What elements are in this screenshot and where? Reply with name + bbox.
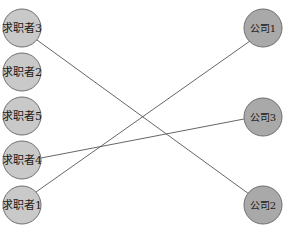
edge-seeker4-company3	[41, 119, 244, 158]
bipartite-graph: 求职者3 求职者2 求职者5 求职者4 求职者1 公司1 公司3 公司2	[0, 0, 285, 231]
node-label: 求职者4	[2, 154, 42, 167]
node-label: 求职者5	[2, 110, 42, 123]
node-company-3[interactable]: 公司3	[244, 98, 282, 136]
node-label: 求职者1	[2, 199, 42, 212]
node-seeker-5[interactable]: 求职者5	[2, 97, 42, 135]
node-label: 公司1	[250, 23, 276, 34]
node-label: 求职者3	[2, 22, 42, 35]
edges	[36, 40, 250, 194]
node-seeker-4[interactable]: 求职者4	[2, 141, 42, 179]
edge-seeker1-company1	[36, 41, 250, 192]
node-company-1[interactable]: 公司1	[244, 9, 282, 47]
node-label: 公司2	[250, 200, 276, 211]
node-seeker-1[interactable]: 求职者1	[2, 186, 42, 224]
node-seeker-3[interactable]: 求职者3	[2, 9, 42, 47]
node-label: 公司3	[250, 112, 276, 123]
node-company-2[interactable]: 公司2	[244, 186, 282, 224]
node-seeker-2[interactable]: 求职者2	[2, 53, 42, 91]
node-label: 求职者2	[2, 66, 42, 79]
